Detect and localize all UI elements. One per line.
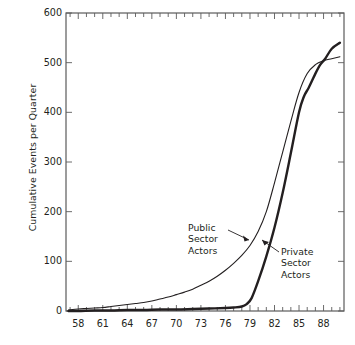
chart-figure: Cumulative Events per Quarter 0100200300… (0, 0, 355, 345)
annotation-private-line-1: Private (281, 246, 313, 257)
annotation-private-line-3: Actors (281, 269, 313, 280)
public-leader-arrowhead (243, 236, 249, 242)
annotation-private-sector-actors: Private Sector Actors (281, 246, 313, 280)
annotation-public-line-3: Actors (188, 245, 218, 256)
annotation-private-line-2: Sector (281, 257, 313, 268)
annotation-public-sector-actors: Public Sector Actors (188, 222, 218, 256)
annotation-public-line-1: Public (188, 222, 218, 233)
annotation-public-line-2: Sector (188, 233, 218, 244)
plot-area (0, 0, 355, 345)
